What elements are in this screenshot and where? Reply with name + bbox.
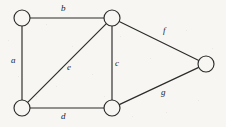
edge-label-a: a: [11, 56, 16, 65]
edge-label-e: e: [67, 63, 71, 72]
paper-speck: [72, 46, 73, 47]
graph-vertex-v4: [14, 100, 30, 116]
paper-speck: [56, 86, 57, 87]
edge-label-c: c: [115, 59, 119, 68]
graph-vertex-v3: [198, 56, 214, 72]
paper-speck: [46, 24, 47, 25]
paper-speck: [150, 58, 151, 59]
edge-label-g: g: [161, 88, 166, 97]
paper-speck: [212, 48, 213, 49]
graph-canvas: [0, 0, 226, 127]
paper-speck: [120, 36, 121, 37]
paper-speck: [104, 96, 105, 97]
paper-speck: [132, 116, 133, 117]
paper-speck: [186, 30, 187, 31]
edge-label-d: d: [61, 112, 66, 121]
edge-label-f: f: [163, 26, 166, 35]
graph-edge-g: [119, 67, 199, 104]
paper-speck: [92, 74, 93, 75]
paper-speck: [166, 112, 167, 113]
graph-vertex-v5: [104, 100, 120, 116]
nodes-group: [14, 10, 214, 116]
graph-figure: abcdefg: [0, 0, 226, 127]
graph-vertex-v1: [14, 10, 30, 26]
paper-speck: [18, 76, 19, 77]
edge-label-b: b: [61, 4, 66, 13]
graph-edge-f: [119, 22, 199, 61]
graph-vertex-v2: [104, 10, 120, 26]
paper-speck: [8, 40, 9, 41]
edges-group: [22, 18, 199, 108]
paper-speck: [198, 100, 199, 101]
paper-speck: [36, 96, 37, 97]
